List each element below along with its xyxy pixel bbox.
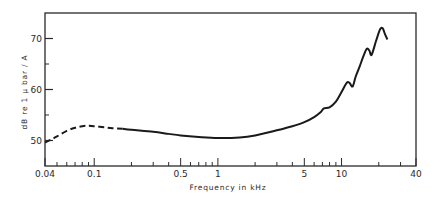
chart-background — [0, 0, 440, 197]
x-tick-label: 0.1 — [87, 169, 101, 179]
x-tick-label: 40 — [410, 169, 422, 179]
x-tick-label: 10 — [336, 169, 348, 179]
y-axis-title: dB re 1 μ bar / A — [20, 54, 29, 129]
x-axis-title: Frequency in kHz — [189, 183, 266, 192]
y-tick-label: 60 — [31, 85, 43, 95]
frequency-response-chart: 0.040.10.5151040506070 Frequency in kHz … — [0, 0, 440, 197]
x-tick-label: 0.5 — [173, 169, 187, 179]
x-tick-label: 1 — [215, 169, 221, 179]
x-tick-label: 5 — [301, 169, 307, 179]
y-tick-label: 50 — [31, 136, 43, 146]
x-tick-label: 0.04 — [35, 169, 55, 179]
y-tick-label: 70 — [31, 34, 43, 44]
